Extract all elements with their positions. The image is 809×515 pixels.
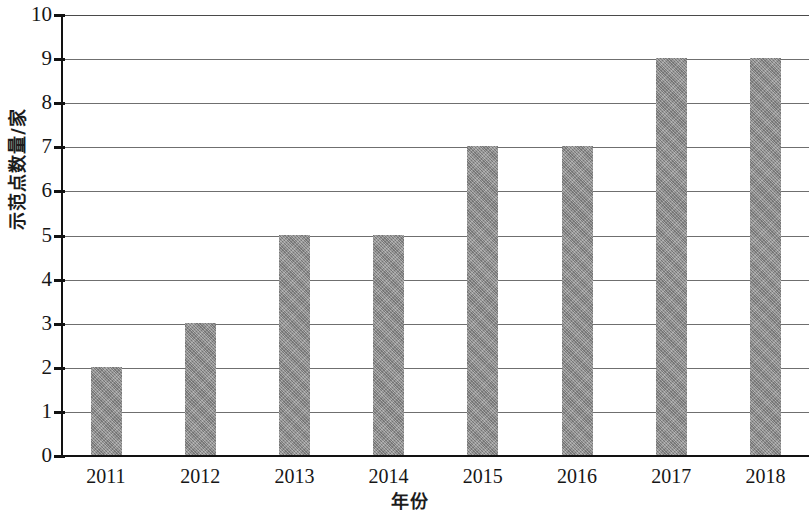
bar [185,323,216,455]
y-axis-tick-labels: 012345678910 [6,0,52,515]
y-axis-tickmark [54,14,65,17]
y-axis-tickmark [54,190,65,193]
y-axis-tick-label: 6 [12,180,52,201]
y-axis-tick-label: 5 [12,225,52,246]
y-axis-tick-label: 1 [12,401,52,422]
y-axis-tickmark [54,235,65,238]
y-axis-tick-label: 10 [12,4,52,25]
y-axis-tick-label: 2 [12,357,52,378]
bar [91,367,122,455]
bar-chart-figure: 示范点数量/家 012345678910 2011201220132014201… [0,0,809,515]
x-axis-title: 年份 [5,487,809,513]
y-axis-tick-label: 3 [12,313,52,334]
x-axis-line [61,455,809,457]
plot-area [61,15,809,457]
bar [750,58,781,455]
y-axis-tickmark [54,58,65,61]
y-axis-tick-label: 4 [12,269,52,290]
gridline [61,15,809,16]
y-axis-tickmark [54,367,65,370]
x-axis-tick-label: 2014 [349,466,429,486]
y-axis-tickmark [54,102,65,105]
x-axis-tick-label: 2018 [725,466,805,486]
y-axis-tick-label: 9 [12,48,52,69]
bar [562,146,593,455]
bar [373,235,404,456]
y-axis-tickmark [54,323,65,326]
y-axis-tickmark [54,279,65,282]
y-axis-tick-label: 7 [12,136,52,157]
bar [279,235,310,456]
y-axis-tick-label: 0 [12,445,52,466]
x-axis-tick-label: 2017 [631,466,711,486]
x-axis-tick-label: 2015 [443,466,523,486]
gridline [61,280,809,281]
gridline [61,368,809,369]
x-axis-tick-label: 2011 [66,466,146,486]
bar [656,58,687,455]
gridline [61,59,809,60]
gridline [61,103,809,104]
y-axis-tickmark [54,411,65,414]
y-axis-tick-label: 8 [12,92,52,113]
x-axis-tick-label: 2016 [537,466,617,486]
x-axis-tick-label: 2013 [254,466,334,486]
gridline [61,191,809,192]
gridline [61,324,809,325]
gridline [61,147,809,148]
x-axis-tick-label: 2012 [160,466,240,486]
y-axis-tickmark [54,146,65,149]
gridline [61,412,809,413]
gridline [61,236,809,237]
y-axis-tickmark [54,455,65,458]
bar [467,146,498,455]
